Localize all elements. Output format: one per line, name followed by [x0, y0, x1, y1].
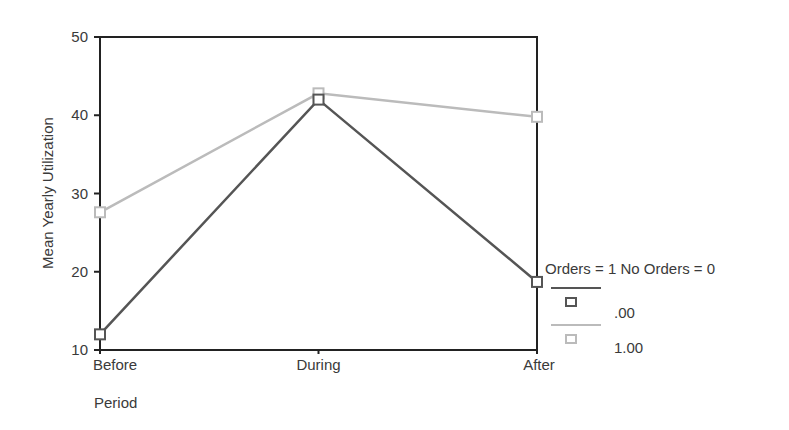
- data-point-marker: [532, 277, 542, 287]
- series-line: [100, 93, 537, 212]
- data-point-marker: [314, 95, 324, 105]
- data-point-marker: [95, 329, 105, 339]
- plot-frame: [100, 37, 537, 350]
- legend-item-.00: .00: [551, 288, 635, 321]
- x-axis-title: Period: [94, 394, 137, 411]
- data-point-marker: [532, 112, 542, 122]
- y-tick-label: 30: [71, 185, 88, 202]
- legend-item-1.00: 1.00: [551, 325, 643, 356]
- series-group: [95, 88, 542, 339]
- y-tick-label: 10: [71, 341, 88, 358]
- series-1.00: [95, 88, 542, 217]
- x-tick-label: Before: [93, 356, 137, 373]
- y-axis-title: Mean Yearly Utilization: [39, 117, 56, 269]
- y-axis: 1020304050: [71, 28, 100, 358]
- legend-label: 1.00: [614, 339, 643, 356]
- plot-border: [100, 37, 537, 350]
- legend-marker: [566, 298, 576, 306]
- data-point-marker: [95, 207, 105, 217]
- legend: Orders = 1 No Orders = 0 .001.00: [545, 260, 715, 356]
- series-.00: [95, 95, 542, 340]
- legend-marker: [566, 335, 576, 343]
- series-line: [100, 100, 537, 335]
- y-tick-label: 50: [71, 28, 88, 45]
- legend-title: Orders = 1 No Orders = 0: [545, 260, 715, 277]
- x-tick-label: After: [523, 356, 555, 373]
- x-tick-label: During: [296, 356, 340, 373]
- legend-label: .00: [614, 304, 635, 321]
- y-tick-label: 40: [71, 106, 88, 123]
- y-tick-label: 20: [71, 263, 88, 280]
- line-chart: 1020304050 BeforeDuringAfter Mean Yearly…: [0, 0, 789, 430]
- x-axis: BeforeDuringAfter: [93, 350, 555, 373]
